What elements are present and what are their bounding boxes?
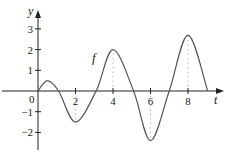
x-tick-label: 2 (73, 95, 79, 107)
x-axis-label: t (214, 93, 218, 107)
y-axis-label: y (27, 4, 34, 18)
y-tick-label: 1 (28, 64, 34, 76)
function-curve-f (38, 35, 208, 141)
y-tick-label: 3 (28, 23, 34, 35)
axes (2, 10, 224, 150)
y-tick-label: 2 (28, 44, 34, 56)
x-tick-label: 4 (110, 95, 116, 107)
y-tick-label: −1 (21, 106, 33, 118)
y-tick-label: −2 (21, 126, 33, 138)
origin-label: 0 (29, 93, 35, 105)
curve-label-f: f (92, 50, 98, 65)
function-graph: 2468−2−1123 t y 0 f (0, 0, 229, 152)
y-axis-arrow-icon (35, 10, 41, 18)
x-tick-label: 6 (148, 95, 154, 107)
x-tick-label: 8 (185, 95, 191, 107)
